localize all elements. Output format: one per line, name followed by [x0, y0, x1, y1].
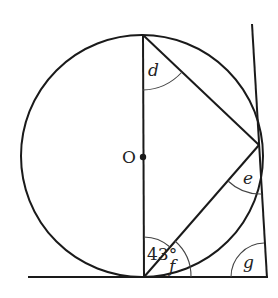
angle-label-g: g [243, 252, 254, 272]
center-label: O [122, 147, 136, 167]
angle-label-e: e [243, 168, 253, 188]
angle-label-d: d [148, 60, 159, 80]
geometry-diagram: O d 43° f e g [0, 0, 278, 298]
center-point [140, 154, 146, 160]
